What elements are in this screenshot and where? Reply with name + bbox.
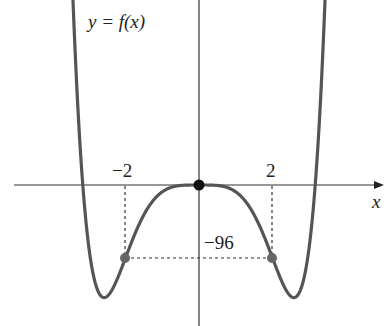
tick-label-pos2: 2 (266, 160, 276, 181)
x-axis-arrow-icon (374, 181, 384, 189)
value-label-neg96: −96 (204, 232, 234, 253)
x-axis-label: x (371, 191, 381, 212)
point-neg2 (120, 253, 130, 263)
function-label: y = f(x) (86, 11, 145, 33)
point-pos2 (267, 253, 277, 263)
function-graph: y = f(x) −2 2 −96 x (0, 0, 390, 326)
tick-label-neg2: −2 (112, 160, 132, 181)
point-origin (194, 180, 205, 191)
